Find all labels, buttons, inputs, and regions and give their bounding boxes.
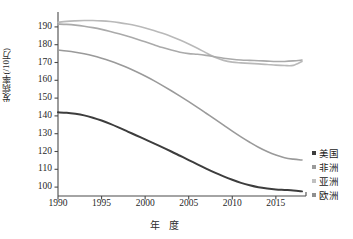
series-line-2 <box>58 50 302 160</box>
legend-item-4[interactable]: 欧洲 <box>312 188 353 202</box>
x-tick-label: 1995 <box>85 198 119 208</box>
legend-item-3[interactable]: 亚洲 <box>312 174 353 188</box>
y-tick-label: 110 <box>22 163 52 173</box>
y-tick-label: 190 <box>22 21 52 31</box>
x-axis-title: 年 度 <box>150 217 182 232</box>
y-tick-label: 170 <box>22 57 52 67</box>
x-tick-label: 2000 <box>128 198 162 208</box>
y-tick-label: 130 <box>22 128 52 138</box>
legend-item-2[interactable]: 非洲 <box>312 160 353 174</box>
y-tick-label: 140 <box>22 110 52 120</box>
legend-swatch-icon <box>312 179 316 183</box>
legend-label: 非洲 <box>319 160 339 174</box>
y-tick-label: 120 <box>22 146 52 156</box>
y-axis-title: 发病率(/10万) <box>2 48 16 102</box>
chart-container: 发病率(/10万) 100110120130140150160170180190… <box>0 0 353 239</box>
x-axis-tick-labels: 199019952000200520102015 <box>0 195 353 211</box>
legend-item-1[interactable]: 美国 <box>312 146 353 160</box>
legend-label: 亚洲 <box>319 174 339 188</box>
y-tick-label: 160 <box>22 74 52 84</box>
legend-label: 欧洲 <box>319 188 339 202</box>
legend-swatch-icon <box>312 151 316 155</box>
y-tick-label: 100 <box>22 181 52 191</box>
y-tick-label: 150 <box>22 92 52 102</box>
x-tick-label: 2015 <box>259 198 293 208</box>
legend-swatch-icon <box>312 193 316 197</box>
y-tick-label: 180 <box>22 39 52 49</box>
chart-legend: 美国非洲亚洲欧洲 <box>312 146 353 202</box>
legend-label: 美国 <box>319 146 339 160</box>
legend-swatch-icon <box>312 165 316 169</box>
x-tick-label: 1990 <box>41 198 75 208</box>
x-tick-label: 2005 <box>172 198 206 208</box>
x-tick-label: 2010 <box>215 198 249 208</box>
series-line-1 <box>58 112 302 191</box>
